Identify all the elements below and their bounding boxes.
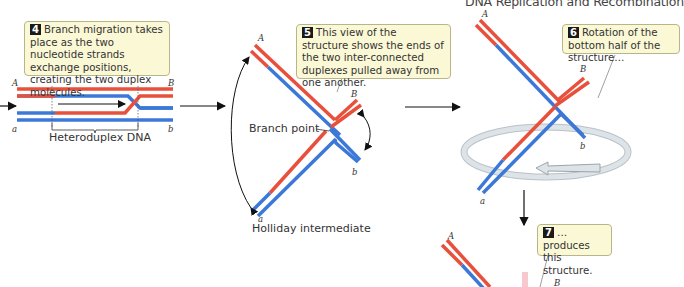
holliday-intermediate-label: Holliday intermediate	[252, 222, 371, 235]
end-label-a: a	[258, 214, 263, 224]
step7-callout: 7…produces this structure.	[537, 224, 612, 256]
end-label-b: b	[580, 141, 585, 151]
step-number: 5	[302, 27, 313, 38]
step-number: 4	[30, 24, 41, 35]
heteroduplex-label: Heteroduplex DNA	[49, 131, 151, 144]
end-label-a: a	[12, 124, 17, 134]
end-label-A: A	[12, 78, 18, 88]
branch-point-label: Branch point	[249, 122, 319, 135]
end-label-A: A	[482, 9, 488, 19]
end-label-A: A	[258, 33, 264, 43]
step7-result-structure	[442, 240, 548, 287]
end-label-b: b	[168, 124, 173, 134]
step5-callout: 5This view of the structure shows the en…	[296, 24, 451, 79]
end-label-A: A	[448, 231, 454, 241]
step6-callout: 6Rotation of the bottom half of the stru…	[562, 24, 680, 54]
step-number: 7	[543, 227, 554, 238]
step-number: 6	[568, 27, 579, 38]
step4-callout: 4Branch migration takes place as the two…	[24, 21, 170, 76]
end-label-a: a	[480, 196, 485, 206]
end-label-B: B	[351, 89, 357, 99]
end-label-B: B	[168, 78, 174, 88]
step-text: Branch migration takes place as the two …	[30, 24, 163, 98]
end-label-B: B	[554, 278, 560, 287]
end-label-b: b	[352, 167, 357, 177]
step-text: This view of the structure shows the end…	[302, 27, 444, 88]
end-label-B: B	[580, 64, 586, 74]
